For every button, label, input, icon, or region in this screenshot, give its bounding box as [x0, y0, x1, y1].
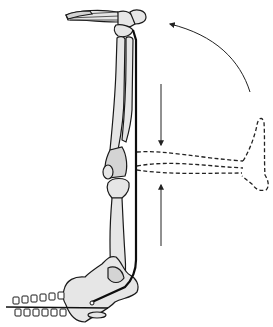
flexed-limb-outline [137, 118, 268, 190]
anatomy-figure [0, 0, 273, 327]
pelvis [63, 257, 138, 322]
tendon-anchor [90, 301, 94, 305]
tibia-fibula [105, 37, 133, 178]
curved-arrow-rotation [170, 24, 250, 92]
